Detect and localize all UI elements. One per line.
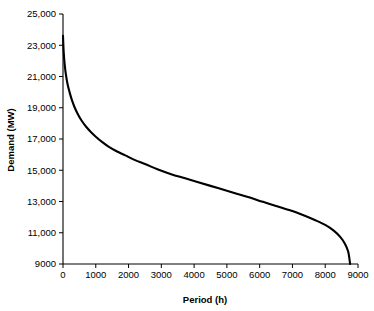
- x-tick-label: 2000: [118, 269, 139, 280]
- x-tick-label: 7000: [282, 269, 303, 280]
- chart-figure: 900011,00013,00015,00017,00019,00021,000…: [0, 0, 374, 311]
- x-tick-label: 0: [60, 269, 65, 280]
- x-tick-label: 9000: [347, 269, 368, 280]
- y-tick-label: 19,000: [27, 102, 56, 113]
- y-tick-label: 9000: [35, 258, 56, 269]
- x-axis-ticks: [63, 264, 358, 268]
- y-axis-ticks: [59, 14, 63, 264]
- y-tick-label: 25,000: [27, 8, 56, 19]
- y-tick-label: 13,000: [27, 196, 56, 207]
- x-tick-label: 1000: [85, 269, 106, 280]
- y-axis-group: 900011,00013,00015,00017,00019,00021,000…: [27, 8, 63, 269]
- x-axis-tick-labels: 0100020003000400050006000700080009000: [60, 269, 368, 280]
- y-tick-label: 11,000: [28, 227, 56, 238]
- y-tick-label: 17,000: [27, 133, 56, 144]
- y-tick-label: 21,000: [27, 71, 56, 82]
- x-axis-title: Period (h): [183, 294, 227, 305]
- y-axis-tick-labels: 900011,00013,00015,00017,00019,00021,000…: [27, 8, 56, 269]
- demand-curve: [63, 36, 350, 264]
- x-tick-label: 4000: [184, 269, 205, 280]
- x-tick-label: 3000: [151, 269, 172, 280]
- x-axis-group: 0100020003000400050006000700080009000: [60, 264, 368, 280]
- load-duration-chart: 900011,00013,00015,00017,00019,00021,000…: [0, 0, 374, 311]
- x-tick-label: 5000: [216, 269, 237, 280]
- x-tick-label: 6000: [249, 269, 270, 280]
- y-tick-label: 15,000: [27, 165, 56, 176]
- y-axis-title: Demand (MW): [5, 108, 16, 171]
- y-tick-label: 23,000: [27, 40, 56, 51]
- x-tick-label: 8000: [315, 269, 336, 280]
